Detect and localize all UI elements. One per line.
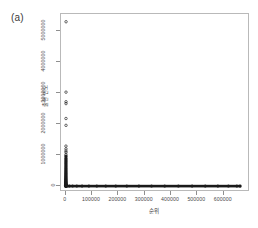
y-tick-label: 4000000: [35, 51, 53, 72]
x-axis-title: 순위: [149, 207, 159, 215]
x-tick-mark: [91, 191, 92, 195]
data-point: [65, 21, 68, 24]
x-tick-label: 0: [63, 196, 66, 202]
y-tick-label-wrap: 2000000: [0, 114, 60, 132]
data-point: [65, 124, 68, 127]
x-tick-label: 400000: [161, 196, 179, 202]
y-tick-label: 3000000: [35, 82, 53, 103]
dense-frequency-band: [64, 185, 241, 188]
data-point: [65, 145, 68, 148]
y-tick-label: 5000000: [35, 20, 53, 41]
x-tick-mark: [65, 191, 66, 195]
x-tick-label: 200000: [108, 196, 126, 202]
y-tick-label: 0: [44, 184, 62, 187]
figure-panel: (a) 출현 빈도 010000002000000300000040000005…: [0, 0, 258, 228]
y-tick-label-wrap: 1000000: [0, 145, 60, 163]
y-tick-label: 1000000: [35, 144, 53, 165]
x-tick-label: 300000: [135, 196, 153, 202]
x-axis: 순위 0100000200000300000400000500000600000: [0, 191, 258, 228]
x-tick-mark: [223, 191, 224, 195]
x-tick-label: 500000: [187, 196, 205, 202]
x-tick-mark: [196, 191, 197, 195]
x-tick-label: 100000: [82, 196, 100, 202]
scatter-points: [61, 14, 249, 191]
y-tick-label-wrap: 4000000: [0, 52, 60, 70]
x-tick-label: 600000: [214, 196, 232, 202]
y-tick-label-wrap: 5000000: [0, 21, 60, 39]
data-point: [65, 117, 68, 120]
x-tick-mark: [117, 191, 118, 195]
plot-area: [60, 13, 249, 191]
data-point: [65, 91, 68, 94]
scatter-data-layer: [61, 14, 248, 190]
x-tick-mark: [170, 191, 171, 195]
y-tick-label: 2000000: [35, 113, 53, 134]
x-tick-mark: [144, 191, 145, 195]
y-tick-label-wrap: 3000000: [0, 83, 60, 101]
dense-rank-spine: [65, 155, 68, 186]
